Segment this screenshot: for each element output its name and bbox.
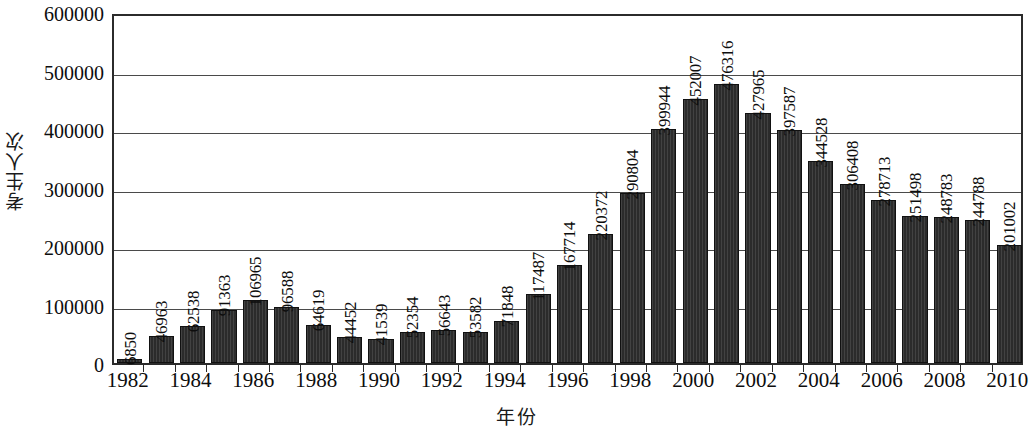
y-tick-label: 200000 [44, 238, 104, 258]
bar-value-label: 71848 [498, 286, 515, 328]
bar-value-label: 96588 [278, 271, 295, 313]
bar-value-label: 44452 [341, 302, 358, 344]
bar[interactable] [274, 307, 299, 364]
bar-slot: 452007 [683, 16, 708, 363]
bar[interactable] [777, 130, 802, 363]
bar-value-label: 52354 [404, 297, 421, 339]
bar-slot: 64619 [306, 16, 331, 363]
bar-value-label: 476316 [718, 41, 735, 91]
x-tick-label: 2010 [986, 370, 1028, 391]
bar-value-label: 344528 [812, 118, 829, 168]
x-tick-label: 2000 [672, 370, 714, 391]
x-tick-label: 1992 [421, 370, 463, 391]
x-tick-label: 1998 [609, 370, 651, 391]
bar-slot: 52354 [400, 16, 425, 363]
bar[interactable] [902, 216, 927, 363]
bar-value-label: 201002 [1001, 202, 1018, 252]
x-tick-label: 1986 [232, 370, 274, 391]
bar-slot: 248783 [934, 16, 959, 363]
bar-value-label: 220372 [592, 191, 609, 241]
x-tick-label: 1996 [547, 370, 589, 391]
bar-value-label: 106965 [247, 257, 264, 307]
y-tick-label: 600000 [44, 4, 104, 24]
bar-slot: 476316 [714, 16, 739, 363]
bar[interactable] [683, 99, 708, 363]
x-tick-label: 2006 [861, 370, 903, 391]
bar-slot: 46963 [149, 16, 174, 363]
bar-slot: 251498 [902, 16, 927, 363]
bar-value-label: 397587 [781, 87, 798, 137]
bar-slot: 244788 [965, 16, 990, 363]
bar-value-label: 64619 [310, 290, 327, 332]
x-tick-label: 1990 [358, 370, 400, 391]
bar-value-label: 167714 [561, 221, 578, 271]
bar[interactable] [808, 161, 833, 363]
bar[interactable] [745, 113, 770, 363]
bar-value-label: 427965 [749, 69, 766, 119]
bar-value-label: 452007 [687, 55, 704, 105]
bar-slot: 41539 [368, 16, 393, 363]
bar[interactable] [588, 234, 613, 363]
bar[interactable] [871, 200, 896, 363]
bar-value-label: 56643 [435, 295, 452, 337]
bar-value-label: 251498 [907, 172, 924, 222]
y-tick-label: 300000 [44, 180, 104, 200]
bar-value-label: 244788 [969, 176, 986, 226]
bar[interactable] [620, 193, 645, 363]
bar-value-label: 278713 [875, 157, 892, 207]
x-tick-label: 1982 [107, 370, 149, 391]
bar-value-label: 117487 [530, 252, 547, 301]
bar-value-label: 46963 [153, 300, 170, 342]
x-tick-label: 1988 [295, 370, 337, 391]
bar-value-label: 399944 [655, 86, 672, 136]
x-tick-label: 2002 [735, 370, 777, 391]
bar[interactable] [714, 84, 739, 363]
bar-slot: 62538 [180, 16, 205, 363]
bar-slot: 427965 [745, 16, 770, 363]
bar-value-label: 91363 [215, 274, 232, 316]
bar[interactable] [934, 217, 959, 363]
bar-slot: 397587 [777, 16, 802, 363]
bar[interactable] [526, 294, 551, 363]
bar-slot: 201002 [997, 16, 1022, 363]
bar-slot: 344528 [808, 16, 833, 363]
x-tick-label: 2008 [923, 370, 965, 391]
bar-slot: 167714 [557, 16, 582, 363]
bar-value-label: 6850 [121, 332, 138, 365]
bar-slot: 290804 [620, 16, 645, 363]
bar-slot: 91363 [211, 16, 236, 363]
y-tick-label: 400000 [44, 121, 104, 141]
bars-layer: 6850469636253891363106965965886461944452… [114, 16, 1021, 363]
y-tick-label: 100000 [44, 297, 104, 317]
bar-slot: 117487 [526, 16, 551, 363]
bar[interactable] [965, 220, 990, 363]
bar[interactable] [243, 300, 268, 363]
bar-slot: 399944 [651, 16, 676, 363]
bar-slot: 278713 [871, 16, 896, 363]
bar[interactable] [494, 321, 519, 363]
y-tick-label: 500000 [44, 63, 104, 83]
bar[interactable] [997, 245, 1022, 363]
bar-value-label: 306408 [844, 140, 861, 190]
bar-slot: 220372 [588, 16, 613, 363]
bar[interactable] [651, 129, 676, 363]
bar-slot: 44452 [337, 16, 362, 363]
bar[interactable] [557, 265, 582, 363]
bar-value-label: 62538 [184, 291, 201, 333]
bar-value-label: 248783 [938, 174, 955, 224]
bar-slot: 56643 [431, 16, 456, 363]
bar-value-label: 41539 [373, 303, 390, 345]
x-axis-tick-labels: 1982198419861988199019921994199619982000… [0, 370, 1034, 402]
bar-slot: 71848 [494, 16, 519, 363]
x-tick-label: 1994 [484, 370, 526, 391]
bar-slot: 53582 [463, 16, 488, 363]
bar[interactable] [211, 310, 236, 363]
bar-slot: 306408 [840, 16, 865, 363]
bar-slot: 106965 [243, 16, 268, 363]
plot-area: 6850469636253891363106965965886461944452… [112, 14, 1023, 365]
y-axis-title: 考生人次 [2, 96, 28, 246]
bar-chart: 考生人次 01000002000003000004000005000006000… [0, 0, 1034, 430]
x-axis-title: 年份 [0, 402, 1034, 429]
bar[interactable] [840, 184, 865, 363]
bar-value-label: 53582 [467, 296, 484, 338]
